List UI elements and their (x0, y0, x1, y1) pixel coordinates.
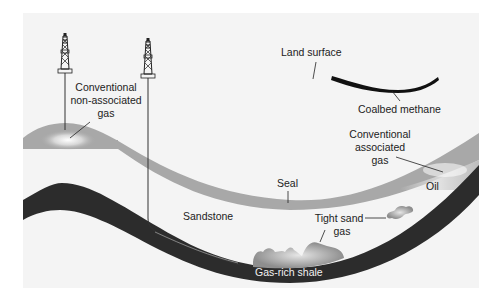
label-land-surface: Land surface (281, 46, 342, 59)
label-line: gas (312, 225, 366, 238)
label-line: Tight sand (312, 212, 366, 225)
non-associated-gas-accumulation (40, 130, 96, 150)
label-oil: Oil (426, 180, 439, 193)
label-line: Conventional (68, 81, 144, 94)
label-line: gas (68, 107, 144, 120)
label-conventional-non-associated-gas: Conventional non-associated gas (68, 81, 144, 120)
gas-resources-diagram: Conventional non-associated gas Land sur… (0, 0, 504, 295)
label-conventional-associated-gas: Conventional associated gas (345, 128, 415, 167)
label-line: Conventional (345, 128, 415, 141)
label-line: gas (345, 154, 415, 167)
label-sandstone: Sandstone (183, 210, 233, 223)
label-coalbed-methane: Coalbed methane (358, 103, 441, 116)
label-line: associated (345, 141, 415, 154)
label-tight-sand-gas: Tight sand gas (312, 212, 366, 238)
label-seal: Seal (277, 177, 298, 190)
associated-gas-accumulation (423, 163, 467, 177)
label-line: non-associated (68, 94, 144, 107)
label-gas-rich-shale: Gas-rich shale (255, 266, 323, 279)
